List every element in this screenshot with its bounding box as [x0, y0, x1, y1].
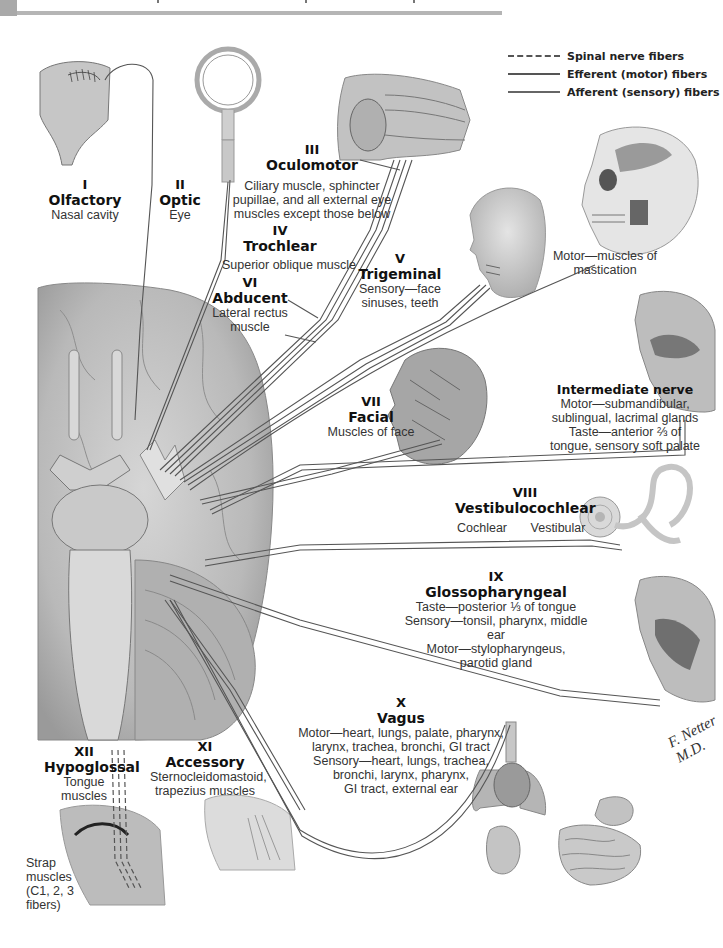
nerve-desc: bronchi, larynx, pharynx,	[296, 768, 506, 782]
nerve-desc: mastication	[550, 263, 660, 277]
nerve-desc: Motor—muscles of	[550, 249, 660, 263]
label-vagus: X Vagus Motor—heart, lungs, palate, phar…	[296, 696, 506, 796]
legend-item-afferent: Afferent (sensory) fibers	[508, 83, 720, 101]
nerve-desc: Taste—posterior ⅓ of tongue	[396, 600, 596, 614]
nerve-desc: Strap	[26, 856, 86, 870]
nerve-desc: GI tract, external ear	[296, 782, 506, 796]
nerve-desc: sinuses, teeth	[350, 296, 450, 310]
nerve-numeral: III	[222, 143, 402, 158]
nerve-name: Trigeminal	[350, 267, 450, 283]
nerve-name: Vestibulocochlear	[455, 501, 595, 517]
nerve-desc: Eye	[150, 208, 210, 222]
nerve-desc: Motor—heart, lungs, palate, pharynx,	[296, 726, 506, 740]
nerve-desc: Motor—submandibular,	[540, 397, 710, 411]
nerve-desc: muscle	[210, 320, 290, 334]
face-profile-illustration	[470, 188, 545, 298]
nerve-desc: Nasal cavity	[40, 208, 130, 222]
nerve-desc: Ciliary muscle, sphincter	[222, 179, 402, 193]
nerve-name: Accessory	[150, 755, 260, 771]
nasal-cavity-illustration	[40, 62, 110, 165]
nerve-numeral: II	[150, 178, 210, 193]
nerve-name: Olfactory	[40, 193, 130, 209]
nerve-name: Hypoglossal	[44, 760, 124, 776]
nerve-desc: Sensory—face	[350, 282, 450, 296]
label-vestibular-branch: Vestibular	[523, 521, 593, 535]
label-abducent: VI Abducent Lateral rectus muscle	[210, 276, 290, 334]
nerve-numeral: IX	[396, 570, 596, 585]
nerve-desc: Sternocleidomastoid,	[150, 770, 260, 784]
dashed-line-icon	[508, 55, 560, 57]
nerve-desc: fibers)	[26, 898, 86, 912]
nerve-name: Intermediate nerve	[540, 383, 710, 397]
nerve-desc: muscles except those below	[222, 207, 402, 221]
pharynx-illustration	[635, 576, 715, 702]
nerve-desc: Lateral rectus	[210, 306, 290, 320]
nerve-desc: trapezius muscles	[150, 784, 260, 798]
label-trigeminal: V Trigeminal Sensory—face sinuses, teeth	[350, 252, 450, 310]
nerve-name: Trochlear	[240, 239, 320, 255]
nerve-desc: muscles	[26, 870, 86, 884]
nerve-name: Oculomotor	[222, 158, 402, 174]
legend-label: Efferent (motor) fibers	[567, 68, 707, 81]
nerve-desc: (C1, 2, 3	[26, 884, 86, 898]
nerve-numeral: VI	[210, 276, 290, 291]
nerve-name: Glossopharyngeal	[396, 585, 596, 601]
nerve-desc: Superior oblique muscle	[214, 258, 364, 272]
nerve-name: Optic	[150, 193, 210, 209]
label-intermediate-nerve: Intermediate nerve Motor—submandibular, …	[540, 383, 710, 453]
legend-item-efferent: Efferent (motor) fibers	[508, 65, 720, 83]
nerve-numeral: X	[296, 696, 506, 711]
nerve-desc: Taste—anterior ⅔ of	[540, 425, 710, 439]
nerve-numeral: I	[40, 178, 130, 193]
nerve-numeral: VII	[326, 395, 416, 410]
label-strap-muscles: Strap muscles (C1, 2, 3 fibers)	[26, 856, 86, 912]
label-optic: II Optic Eye	[150, 178, 210, 222]
legend-item-spinal: Spinal nerve fibers	[508, 47, 720, 65]
brain-inferior-view	[38, 283, 273, 740]
label-facial: VII Facial Muscles of face	[326, 395, 416, 439]
solid-line-icon	[508, 91, 560, 93]
nerve-desc: Sensory—tonsil, pharynx, middle ear	[396, 614, 596, 642]
nerve-desc: parotid gland	[396, 656, 596, 670]
branch-label: Cochlear	[452, 521, 512, 535]
nerve-numeral: V	[350, 252, 450, 267]
nerve-desc: Sensory—heart, lungs, trachea,	[296, 754, 506, 768]
label-trochlear-desc: Superior oblique muscle	[214, 258, 364, 272]
solid-line-icon	[508, 73, 560, 75]
nerve-numeral: VIII	[455, 486, 595, 501]
nerve-desc: Motor—stylopharyngeus,	[396, 642, 596, 656]
nerve-numeral: XII	[44, 745, 124, 760]
legend-label: Spinal nerve fibers	[567, 50, 684, 63]
branch-label: Vestibular	[523, 521, 593, 535]
label-hypoglossal: XII Hypoglossal Tongue muscles	[44, 745, 124, 803]
nerve-name: Abducent	[210, 291, 290, 307]
label-trochlear: IV Trochlear	[240, 224, 320, 254]
nerve-desc: pupillae, and all external eye	[222, 193, 402, 207]
label-cochlear-branch: Cochlear	[452, 521, 512, 535]
nerve-desc: tongue, sensory soft palate	[540, 439, 710, 453]
label-glossopharyngeal: IX Glossopharyngeal Taste—posterior ⅓ of…	[396, 570, 596, 670]
fiber-legend: Spinal nerve fibers Efferent (motor) fib…	[508, 47, 720, 101]
nerve-desc: muscles	[44, 789, 124, 803]
nerve-numeral: XI	[150, 740, 260, 755]
label-oculomotor: III Oculomotor Ciliary muscle, sphincter…	[222, 143, 402, 221]
nerve-desc: sublingual, lacrimal glands	[540, 411, 710, 425]
nerve-desc: larynx, trachea, bronchi, GI tract	[296, 740, 506, 754]
legend-label: Afferent (sensory) fibers	[567, 86, 720, 99]
nerve-numeral: IV	[240, 224, 320, 239]
skull-mastication-illustration	[582, 127, 698, 254]
label-trigeminal-motor: Motor—muscles of mastication	[550, 249, 660, 277]
label-accessory: XI Accessory Sternocleidomastoid, trapez…	[150, 740, 260, 798]
label-vestibulocochlear: VIII Vestibulocochlear	[455, 486, 595, 516]
nerve-desc: Tongue	[44, 775, 124, 789]
neck-illustration	[205, 795, 295, 870]
label-olfactory: I Olfactory Nasal cavity	[40, 178, 130, 222]
nerve-name: Vagus	[296, 711, 506, 727]
nerve-desc: Muscles of face	[326, 425, 416, 439]
inner-ear-illustration	[580, 467, 690, 541]
nerve-name: Facial	[326, 410, 416, 426]
